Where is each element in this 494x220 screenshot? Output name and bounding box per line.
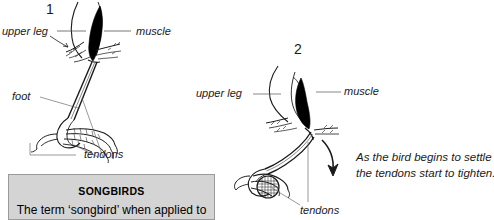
figure-canvas: 1 upper leg muscle foot tendons 2 upper … xyxy=(0,0,494,220)
hallux-toe xyxy=(235,176,251,190)
upper-leg-outline-left xyxy=(71,2,82,58)
lower-leg-outline-right xyxy=(74,62,97,120)
foot-heel xyxy=(57,118,80,148)
leader-upper-leg-arrow xyxy=(50,36,68,47)
muscle-shape xyxy=(296,78,310,129)
settle-annotation-line-2: the tendons start to tighten. xyxy=(356,166,494,181)
hallux-claw xyxy=(31,149,37,152)
lower-leg-outline-left xyxy=(68,62,92,118)
foot-heel-inner xyxy=(67,120,75,146)
muscle-shape xyxy=(89,6,103,61)
hallux-toe-lower xyxy=(41,139,58,146)
feather-barb xyxy=(266,118,288,123)
leader-tendons-b xyxy=(272,188,300,205)
songbirds-callout-title: SONGBIRDS xyxy=(9,185,214,197)
leader-muscle-pointer xyxy=(293,77,300,86)
hallux-toe-lower xyxy=(236,184,249,190)
lower-leg-outline-lower xyxy=(268,137,314,174)
hallux-toe xyxy=(37,134,57,149)
panel-1-label-muscle: muscle xyxy=(136,26,171,37)
leader-foot xyxy=(40,97,78,108)
tendon-line-in-shank xyxy=(71,63,95,119)
motion-arrow-shaft xyxy=(322,140,333,170)
panel-2-label-tendons: tendons xyxy=(300,205,339,216)
feather-barb xyxy=(98,57,118,59)
panel-2-number: 2 xyxy=(294,42,302,56)
claw xyxy=(288,190,290,198)
songbirds-callout-body: The term ‘songbird’ when applied to xyxy=(9,203,214,217)
panel-2-label-upper-leg: upper leg xyxy=(196,88,242,99)
panel-1-label-foot: foot xyxy=(12,91,30,102)
panel-2-label-muscle: muscle xyxy=(344,86,379,97)
feather-barb xyxy=(97,51,121,55)
panel-1-label-upper-leg: upper leg xyxy=(2,26,48,37)
panel-2-drawing xyxy=(235,66,342,205)
feather-barb xyxy=(274,128,297,132)
feather-barb xyxy=(314,128,338,130)
settle-annotation-line-1: As the bird begins to settle xyxy=(356,150,492,165)
knee-joint xyxy=(88,60,100,62)
panel-1-label-tendons: tendons xyxy=(84,149,123,160)
songbirds-callout-box: SONGBIRDS The term ‘songbird’ when appli… xyxy=(8,174,215,220)
panel-1-number: 1 xyxy=(46,2,54,16)
